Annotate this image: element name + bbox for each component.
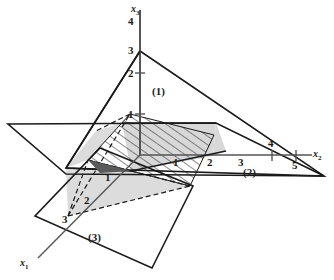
tick-x1-3: 3 <box>62 214 68 225</box>
tick-x2-4: 4 <box>268 138 274 149</box>
axis-label-x2: x2 <box>313 149 322 162</box>
tick-x3-2: 2 <box>128 68 134 79</box>
tick-x2-5: 5 <box>292 160 298 171</box>
tick-x3-3: 3 <box>128 45 134 56</box>
diagram-canvas <box>0 0 334 280</box>
plane-label-1: (1) <box>152 86 165 97</box>
tick-x1-1: 1 <box>105 172 111 183</box>
axis-label-x1: x1 <box>20 258 29 271</box>
tick-x3-4: 4 <box>128 16 134 27</box>
tick-x2-2: 2 <box>207 157 213 168</box>
plane-intersection-diagram: x3 x2 x1 4 3 2 1 1 2 3 4 5 1 2 3 (1) (2)… <box>0 0 334 280</box>
tick-x1-2: 2 <box>84 195 90 206</box>
plane-label-2: (2) <box>243 167 256 178</box>
plane-label-3: (3) <box>88 232 101 243</box>
tick-x2-1: 1 <box>173 157 179 168</box>
tick-x3-1: 1 <box>128 109 134 120</box>
